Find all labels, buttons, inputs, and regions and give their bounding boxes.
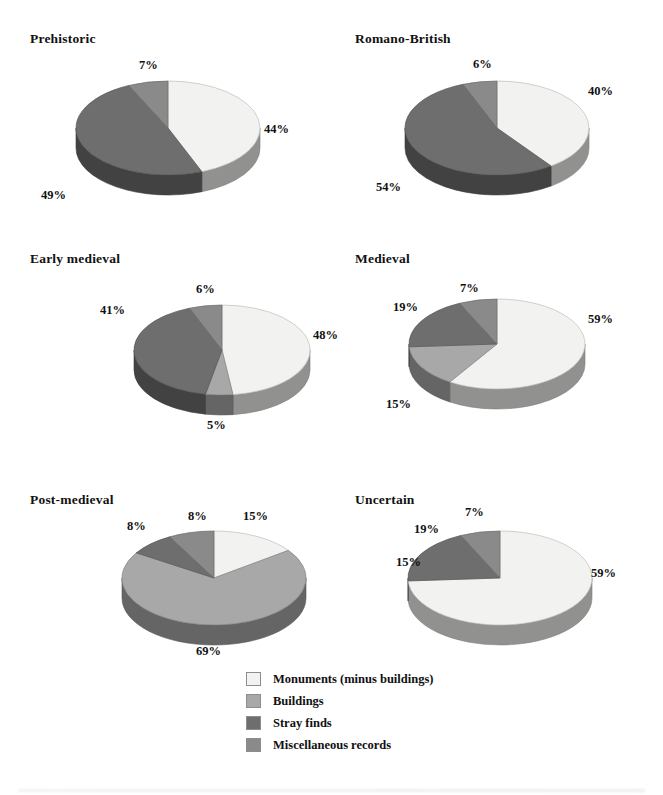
pie-pct-label-medieval-1: 15% [386,397,411,412]
pie-pct-label-early-medieval-1: 5% [207,418,226,433]
pie-uncertain [378,501,622,675]
legend-label-stray_finds: Stray finds [273,716,332,731]
chart-title-post-medieval: Post-medieval [30,492,114,508]
legend-swatch-monuments-icon [246,672,261,686]
legend-swatch-stray_finds-icon [246,716,261,730]
pie-slice-early-medieval-misc_records [190,305,222,350]
pie-slice-post-medieval-stray_finds [136,537,214,578]
pie-slice-uncertain-misc_records [461,531,500,578]
legend-label-misc_records: Miscellaneous records [273,738,391,753]
chart-title-medieval: Medieval [355,251,410,267]
pie-slice-prehistoric-monuments [168,81,260,172]
chart-legend: Monuments (minus buildings)BuildingsStra… [246,668,546,756]
pie-pct-label-post-medieval-3: 8% [127,519,146,534]
legend-swatch-misc_records-icon [246,738,261,752]
pie-slice-uncertain-stray_finds [408,535,500,580]
pie-post-medieval [92,501,336,675]
legend-label-buildings: Buildings [273,694,324,709]
pie-pct-label-medieval-2: 19% [393,300,418,315]
pie-slice-post-medieval-monuments [214,531,288,578]
pie-pct-label-early-medieval-0: 48% [313,328,338,343]
pie-slice-romano-british-misc_records [463,81,497,128]
pie-pct-label-medieval-0: 59% [588,312,613,327]
pie-pct-label-medieval-3: 7% [460,281,479,296]
pie-early-medieval [104,275,340,445]
pie-slice-medieval-stray_finds [409,303,497,347]
legend-item-misc_records: Miscellaneous records [246,734,546,756]
pie-slice-early-medieval-stray_finds [134,308,222,394]
legend-item-monuments: Monuments (minus buildings) [246,668,546,690]
chart-title-uncertain: Uncertain [355,492,415,508]
pie-pct-label-romano-british-2: 6% [473,57,492,72]
pie-slice-medieval-monuments [450,299,585,389]
pie-pct-label-romano-british-0: 40% [588,84,613,99]
pie-slice-medieval-misc_records [460,299,497,344]
pie-pct-label-romano-british-1: 54% [376,180,401,195]
pie-pct-label-prehistoric-1: 49% [41,188,66,203]
pie-pct-label-uncertain-0: 59% [591,566,616,581]
pie-pct-label-uncertain-1: 15% [396,555,421,570]
pie-slice-post-medieval-misc_records [170,531,214,578]
pie-slice-early-medieval-buildings [206,350,234,395]
page-bottom-rule [18,789,645,792]
legend-item-stray_finds: Stray finds [246,712,546,734]
legend-label-monuments: Monuments (minus buildings) [273,672,433,687]
chart-title-prehistoric: Prehistoric [30,31,96,47]
pie-pct-label-uncertain-2: 19% [414,522,439,537]
pie-slice-uncertain-monuments [408,531,592,625]
pie-slice-medieval-buildings [409,344,497,382]
pie-pct-label-post-medieval-0: 15% [243,509,268,524]
pie-pct-label-prehistoric-2: 7% [139,58,158,73]
pie-pct-label-prehistoric-0: 44% [264,122,289,137]
pie-slice-post-medieval-buildings [122,550,306,625]
pie-pct-label-post-medieval-2: 8% [188,509,207,524]
legend-swatch-buildings-icon [246,694,261,708]
pie-romano-british [375,51,619,225]
pie-pct-label-early-medieval-3: 6% [196,282,215,297]
pie-pct-label-uncertain-3: 7% [465,505,484,520]
pie-slice-romano-british-stray_finds [405,84,551,175]
chart-title-early-medieval: Early medieval [30,251,120,267]
pie-slice-early-medieval-monuments [222,305,310,395]
pie-slice-prehistoric-misc_records [129,81,168,128]
chart-title-romano-british: Romano-British [355,31,451,47]
pie-medieval [379,269,615,439]
pie-prehistoric [46,51,290,225]
pie-slice-romano-british-monuments [497,81,589,166]
pie-slice-prehistoric-stray_finds [76,85,202,175]
pie-pct-label-early-medieval-2: 41% [100,303,125,318]
legend-item-buildings: Buildings [246,690,546,712]
pie-pct-label-post-medieval-1: 69% [196,644,221,659]
